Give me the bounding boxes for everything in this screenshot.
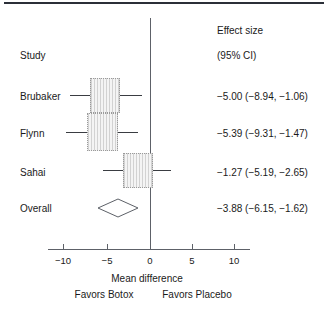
study-label-sahai: Sahai: [20, 167, 46, 178]
effect-marker-box-flynn: [87, 113, 118, 151]
study-label-brubaker: Brubaker: [20, 91, 61, 102]
effect-size-value-brubaker: −5.00 (−8.94, −1.06): [217, 91, 308, 102]
x-axis-tick-label-10: 10: [229, 255, 240, 266]
study-column-header: Study: [20, 50, 46, 61]
x-axis-tick-10: [234, 244, 235, 250]
top-rule-divider: [4, 2, 324, 4]
x-axis-tick-0: [150, 244, 151, 250]
effect-marker-box-brubaker: [90, 78, 120, 113]
effect-size-value-flynn: −5.39 (−9.31, −1.47): [217, 128, 308, 139]
x-axis-tick-5: [192, 244, 193, 250]
x-axis-line: [48, 249, 250, 250]
x-axis-tick-label-0: 0: [147, 255, 152, 266]
effect-size-column-header-line2: (95% CI): [217, 50, 256, 61]
x-axis-title: Mean difference: [111, 273, 183, 284]
x-axis-tick-label--5: −5: [102, 255, 113, 266]
effect-marker-box-sahai: [123, 153, 153, 188]
effect-size-column-header-line1: Effect size: [217, 25, 263, 36]
study-label-flynn: Flynn: [20, 128, 44, 139]
x-axis-tick--5: [107, 244, 108, 250]
x-axis-tick-label-5: 5: [189, 255, 194, 266]
x-axis-tick-label--10: −10: [55, 255, 71, 266]
summary-diamond-overall: [96, 197, 140, 219]
effect-size-value-overall: −3.88 (−6.15, −1.62): [217, 203, 308, 214]
forest-plot-figure: Effect size (95% CI) Study Brubaker −5.0…: [0, 0, 328, 311]
effect-size-value-sahai: −1.27 (−5.19, −2.65): [217, 167, 308, 178]
null-reference-line: [150, 18, 151, 250]
x-axis-tick--10: [63, 244, 64, 250]
favors-right-label: Favors Placebo: [162, 289, 231, 300]
favors-left-label: Favors Botox: [75, 289, 134, 300]
study-label-overall: Overall: [20, 203, 52, 214]
